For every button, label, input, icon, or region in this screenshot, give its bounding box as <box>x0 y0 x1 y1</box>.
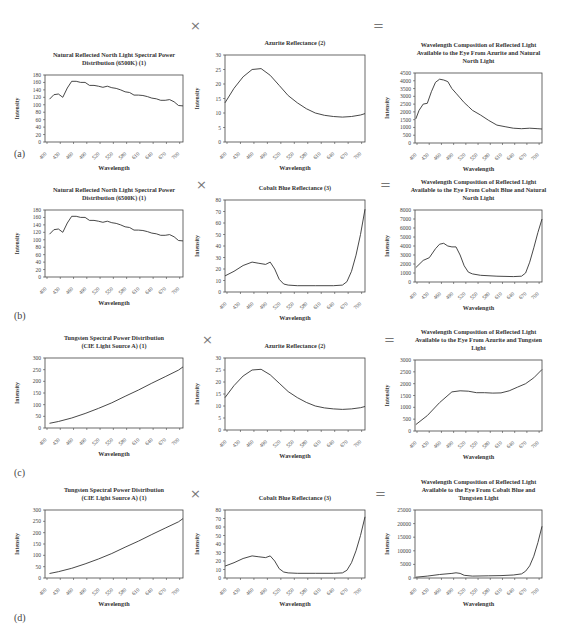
data-series-line <box>225 69 365 118</box>
x-tick-label: 580 <box>117 586 127 596</box>
x-tick-label: 610 <box>312 586 322 596</box>
x-tick-label: 670 <box>518 439 528 449</box>
equals-operator: = <box>375 486 386 501</box>
y-axis-label: Intensity <box>194 533 200 555</box>
plot-frame <box>45 210 183 277</box>
chart-panel-c3: Wavelength Composition of Reflected Ligh… <box>370 330 564 460</box>
x-tick-label: 460 <box>64 285 74 295</box>
x-tick-label: 610 <box>493 151 503 161</box>
chart-panel-a3: Wavelength Composition of Reflected Ligh… <box>370 20 564 145</box>
x-tick-label: 550 <box>285 586 295 596</box>
y-tick-label: 20 <box>36 132 42 138</box>
x-tick-label: 430 <box>51 150 61 160</box>
plot-frame <box>45 358 183 428</box>
x-tick-label: 430 <box>51 436 61 446</box>
x-tick-label: 580 <box>481 586 491 596</box>
y-tick-label: 1500 <box>400 117 411 123</box>
x-tick-label: 430 <box>420 586 430 596</box>
data-series-line <box>50 216 184 241</box>
x-tick-label: 640 <box>505 586 515 596</box>
y-tick-label: 80 <box>216 507 222 513</box>
x-tick-label: 580 <box>117 285 127 295</box>
x-tick-label: 670 <box>157 150 167 160</box>
data-series-line <box>50 519 184 574</box>
y-tick-label: 60 <box>36 117 42 123</box>
row-label: (c) <box>14 467 25 478</box>
x-tick-label: 700 <box>352 586 362 596</box>
y-tick-label: 250 <box>33 367 42 373</box>
y-tick-label: 160 <box>33 79 42 85</box>
x-tick-label: 550 <box>104 586 114 596</box>
x-tick-label: 550 <box>285 150 295 160</box>
y-tick-label: 20 <box>216 379 222 385</box>
y-tick-label: 80 <box>36 109 42 115</box>
line-chart: 0500010000150002000025000400430460490520… <box>370 480 564 605</box>
x-tick-label: 550 <box>104 150 114 160</box>
x-tick-label: 670 <box>339 586 349 596</box>
line-chart: 0501001502002503004004304604905205505806… <box>0 330 190 460</box>
line-chart: 0102030405060708040043046049052055058061… <box>190 170 370 300</box>
y-tick-label: 180 <box>33 207 42 213</box>
x-tick-label: 460 <box>245 438 255 448</box>
y-tick-label: 8000 <box>400 207 411 213</box>
x-tick-label: 520 <box>456 290 466 300</box>
data-series-line <box>50 81 184 106</box>
y-tick-label: 300 <box>33 507 42 513</box>
y-tick-label: 60 <box>36 252 42 258</box>
line-chart: 0510152025304004304604905205505806106406… <box>190 20 370 145</box>
x-tick-label: 520 <box>91 285 101 295</box>
x-axis-label: Wavelength <box>98 600 130 607</box>
x-tick-label: 700 <box>530 586 540 596</box>
plot-frame <box>415 210 542 282</box>
x-tick-label: 490 <box>444 586 454 596</box>
x-tick-label: 580 <box>117 436 127 446</box>
x-tick-label: 400 <box>408 586 418 596</box>
x-tick-label: 580 <box>117 150 127 160</box>
y-tick-label: 0 <box>38 139 41 145</box>
x-tick-label: 670 <box>339 300 349 310</box>
x-tick-label: 700 <box>170 586 180 596</box>
x-tick-label: 430 <box>231 586 241 596</box>
y-tick-label: 100 <box>33 552 42 558</box>
y-tick-label: 0 <box>408 279 411 285</box>
y-tick-label: 120 <box>33 94 42 100</box>
y-tick-label: 70 <box>216 209 222 215</box>
x-tick-label: 550 <box>469 151 479 161</box>
x-tick-label: 670 <box>157 285 167 295</box>
x-tick-label: 670 <box>518 290 528 300</box>
x-tick-label: 550 <box>285 300 295 310</box>
y-axis-label: Intensity <box>14 97 20 119</box>
x-tick-label: 640 <box>325 438 335 448</box>
y-tick-label: 120 <box>33 229 42 235</box>
chart-panel-a1: Natural Reflected North Light Spectral P… <box>0 20 190 145</box>
y-tick-label: 20 <box>216 81 222 87</box>
y-tick-label: 20 <box>216 266 222 272</box>
y-tick-label: 2000 <box>400 381 411 387</box>
x-tick-label: 700 <box>170 436 180 446</box>
x-tick-label: 670 <box>518 151 528 161</box>
plot-frame <box>415 360 542 431</box>
x-tick-label: 460 <box>64 436 74 446</box>
x-tick-label: 520 <box>91 436 101 446</box>
x-tick-label: 460 <box>64 586 74 596</box>
x-tick-label: 580 <box>481 290 491 300</box>
x-tick-label: 460 <box>432 439 442 449</box>
y-tick-label: 6000 <box>400 225 411 231</box>
plot-frame <box>415 73 542 143</box>
x-tick-label: 460 <box>245 150 255 160</box>
y-tick-label: 180 <box>33 72 42 78</box>
y-tick-label: 40 <box>216 243 222 249</box>
x-tick-label: 700 <box>530 290 540 300</box>
x-tick-label: 640 <box>505 151 515 161</box>
x-tick-label: 610 <box>131 285 141 295</box>
y-tick-label: 25 <box>216 367 222 373</box>
plot-frame <box>225 55 365 142</box>
y-tick-label: 100 <box>33 402 42 408</box>
data-series-line <box>225 369 365 409</box>
data-series-line <box>416 219 542 277</box>
y-tick-label: 1500 <box>400 393 411 399</box>
x-tick-label: 670 <box>518 586 528 596</box>
x-tick-label: 550 <box>104 285 114 295</box>
y-axis-label: Intensity <box>14 382 20 404</box>
y-axis-label: Intensity <box>14 232 20 254</box>
